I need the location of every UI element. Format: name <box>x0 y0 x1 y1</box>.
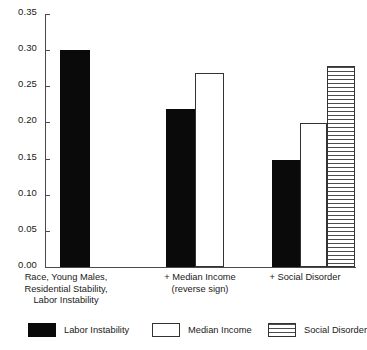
y-tick-label: 0.05 <box>18 224 37 234</box>
legend-item-median-income: Median Income <box>152 322 252 338</box>
bar-group1-labor-instability <box>60 50 90 267</box>
y-tick-label: 0.25 <box>18 79 37 89</box>
x-axis-line <box>45 267 356 268</box>
bar-group3-median-income <box>300 123 327 267</box>
chart-legend: Labor Instability Median Income Social D… <box>0 322 364 342</box>
legend-swatch-solid-icon <box>28 323 56 337</box>
legend-label: Median Income <box>188 325 252 335</box>
y-tick-label: 0.30 <box>18 43 37 53</box>
bar-group2-median-income <box>195 73 224 268</box>
y-tick-label: 0.35 <box>18 7 37 17</box>
y-tick-mark <box>45 267 50 268</box>
x-axis-label-group3: + Social Disorder <box>246 272 364 284</box>
bar-group3-labor-instability <box>272 160 300 267</box>
x-axis-label-group1: Race, Young Males, Residential Stability… <box>6 272 126 307</box>
legend-swatch-open-icon <box>152 323 180 337</box>
y-tick-label: 0.10 <box>18 188 37 198</box>
legend-label: Social Disorder <box>304 325 367 335</box>
y-tick-label: 0.00 <box>18 260 37 270</box>
bar-group3-social-disorder <box>327 66 355 267</box>
plot-area <box>45 14 356 267</box>
legend-label: Labor Instability <box>64 325 129 335</box>
y-tick-label: 0.15 <box>18 152 37 162</box>
legend-item-labor-instability: Labor Instability <box>28 322 129 338</box>
x-axis-label-group2: + Median Income (reverse sign) <box>140 272 260 295</box>
bar-group2-labor-instability <box>166 109 195 267</box>
legend-item-social-disorder: Social Disorder <box>268 322 367 338</box>
y-tick-label: 0.20 <box>18 115 37 125</box>
legend-swatch-hatch-icon <box>268 323 296 337</box>
